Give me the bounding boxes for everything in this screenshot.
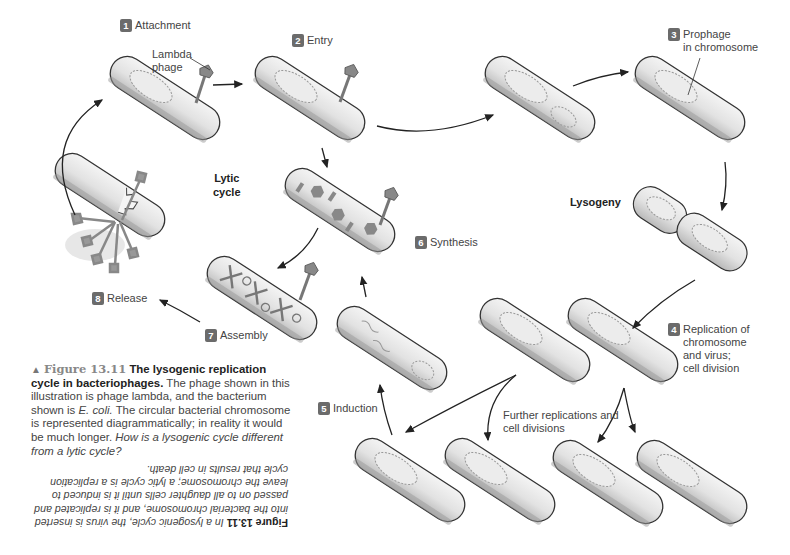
upside-down-answer: Figure 13.11 In a lysogenic cycle, the v…: [30, 463, 288, 529]
step-7-assembly: 7 Assembly: [205, 329, 268, 342]
step-label: Attachment: [135, 19, 191, 32]
lytic-cycle-label: Lytic cycle: [213, 171, 241, 199]
step-badge: 6: [415, 236, 427, 249]
step-badge: 8: [92, 292, 104, 305]
figure-caption: ▲Figure 13.11 The lysogenic replication …: [31, 363, 291, 458]
lambda-phage-label: Lambda phage: [152, 48, 192, 74]
step-badge: 1: [120, 19, 132, 32]
lysogeny-label: Lysogeny: [570, 195, 621, 209]
caption-species: E. coli.: [79, 404, 113, 416]
step-badge: 5: [318, 402, 330, 415]
caption-marker-icon: ▲: [31, 364, 41, 375]
step-label: Release: [107, 292, 147, 305]
step-badge: 7: [205, 329, 217, 342]
step-label: Prophage in chromosome: [683, 28, 758, 54]
step-label: Replication of chromosome and virus; cel…: [683, 323, 750, 375]
further-replications-label: Further replications and cell divisions: [503, 409, 619, 435]
cell-dividing: [627, 180, 753, 276]
step-1-attachment: 1 Attachment: [120, 19, 191, 32]
step-badge: 3: [668, 28, 680, 41]
step-label: Synthesis: [430, 236, 478, 249]
cell-prophage: [629, 50, 752, 146]
phage-assembly: [293, 260, 320, 302]
step-label: Entry: [307, 34, 333, 47]
cell-lysogeny-1: [479, 50, 602, 146]
step-5-induction: 5 Induction: [318, 402, 378, 415]
step-3-prophage: 3 Prophage in chromosome: [668, 28, 758, 54]
step-badge: 4: [668, 323, 680, 336]
step-label: Induction: [333, 402, 378, 415]
caption-figure-number: Figure 13.11: [44, 362, 126, 376]
cell-synthesis: [279, 162, 402, 258]
step-badge: 2: [292, 34, 304, 47]
cell-induction: [331, 300, 454, 396]
step-label: Assembly: [220, 329, 268, 342]
answer-figure-number: Figure 13.11: [227, 517, 288, 529]
step-6-synthesis: 6 Synthesis: [415, 236, 478, 249]
step-4-replication: 4 Replication of chromosome and virus; c…: [668, 323, 750, 375]
step-8-release: 8 Release: [92, 292, 147, 305]
step-2-entry: 2 Entry: [292, 34, 333, 47]
